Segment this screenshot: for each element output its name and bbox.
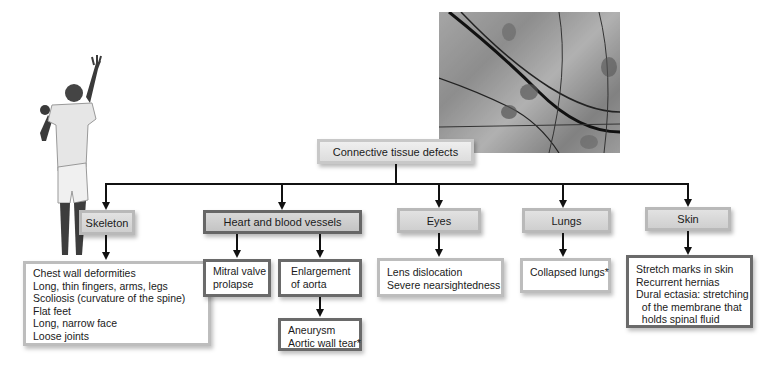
connector-skeleton <box>105 183 107 203</box>
aneurysm-box: Aneurysm Aortic wall tear* <box>278 318 362 351</box>
skin-detail-item: Stretch marks in skin <box>636 263 743 276</box>
mitral-valve-prolapse-box: Mitral valve prolapse <box>203 259 271 297</box>
arrow-lungs-detail-icon <box>559 249 567 257</box>
mitral-line-1: Mitral valve <box>213 265 261 278</box>
enlargement-line-1: Enlargement <box>291 265 352 278</box>
enlargement-of-aorta-box: Enlargement of aorta <box>278 259 362 297</box>
connector-lungs <box>562 183 564 201</box>
connector-heart <box>281 183 283 203</box>
root-node-connective-tissue-defects: Connective tissue defects <box>317 139 474 164</box>
skin-details-box: Stretch marks in skin Recurrent hernias … <box>626 255 753 328</box>
connector-mitral <box>236 234 238 251</box>
skeleton-detail-item: Long, thin fingers, arms, legs <box>33 280 201 293</box>
connector-lungs-detail <box>562 233 564 250</box>
arrow-heart-icon <box>278 202 286 210</box>
connector-skeleton-detail <box>105 235 107 253</box>
arrow-lungs-icon <box>559 200 567 208</box>
connector-enlargement <box>319 234 321 251</box>
connector-eyes <box>438 183 440 201</box>
category-eyes: Eyes <box>397 208 481 233</box>
skeleton-details-box: Chest wall deformities Long, thin finger… <box>23 261 211 346</box>
arrow-skin-detail-icon <box>684 247 692 255</box>
category-heart-and-blood-vessels: Heart and blood vessels <box>203 210 362 234</box>
connector-skin <box>687 183 689 200</box>
mitral-line-2: prolapse <box>213 278 261 291</box>
arrow-skin-icon <box>684 199 692 207</box>
skin-detail-item: Recurrent hernias <box>636 276 743 289</box>
arrow-enlargement-icon <box>316 250 324 258</box>
connector-aneurysm <box>319 296 321 310</box>
connector-eyes-detail <box>438 233 440 250</box>
connector-skin-detail <box>687 231 689 248</box>
skeleton-detail-item: Loose joints <box>33 330 201 343</box>
arrow-skeleton-detail-icon <box>102 252 110 260</box>
enlargement-line-2: of aorta <box>291 278 352 291</box>
skeleton-detail-item: Flat feet <box>33 305 201 318</box>
category-skeleton: Skeleton <box>79 210 135 235</box>
arrow-eyes-detail-icon <box>435 249 443 257</box>
root-stem-line <box>395 164 397 184</box>
eyes-details-box: Lens dislocation Severe nearsightedness <box>377 258 504 297</box>
skeleton-detail-item: Long, narrow face <box>33 317 201 330</box>
branch-horizontal-line <box>105 183 689 185</box>
tissue-micrograph-image <box>439 12 620 153</box>
arrow-skeleton-icon <box>102 202 110 210</box>
aortic-tear-line: Aortic wall tear* <box>288 337 352 350</box>
aneurysm-line: Aneurysm <box>288 324 352 337</box>
arrow-mitral-icon <box>233 250 241 258</box>
skin-detail-item: of the membrane that <box>636 301 743 314</box>
skeleton-detail-item: Scoliosis (curvature of the spine) <box>33 292 201 305</box>
eyes-detail-item: Lens dislocation <box>387 266 494 279</box>
arrow-eyes-icon <box>435 200 443 208</box>
category-lungs: Lungs <box>522 208 611 233</box>
eyes-detail-item: Severe nearsightedness <box>387 279 494 292</box>
lungs-details-box: Collapsed lungs* <box>520 258 611 293</box>
arrow-aneurysm-icon <box>316 309 324 317</box>
skin-detail-item: holds spinal fluid <box>636 313 743 326</box>
skin-detail-item: Dural ectasia: stretching <box>636 288 743 301</box>
lungs-detail-item: Collapsed lungs* <box>530 266 601 279</box>
skeleton-detail-item: Chest wall deformities <box>33 267 201 280</box>
category-skin: Skin <box>645 207 731 231</box>
